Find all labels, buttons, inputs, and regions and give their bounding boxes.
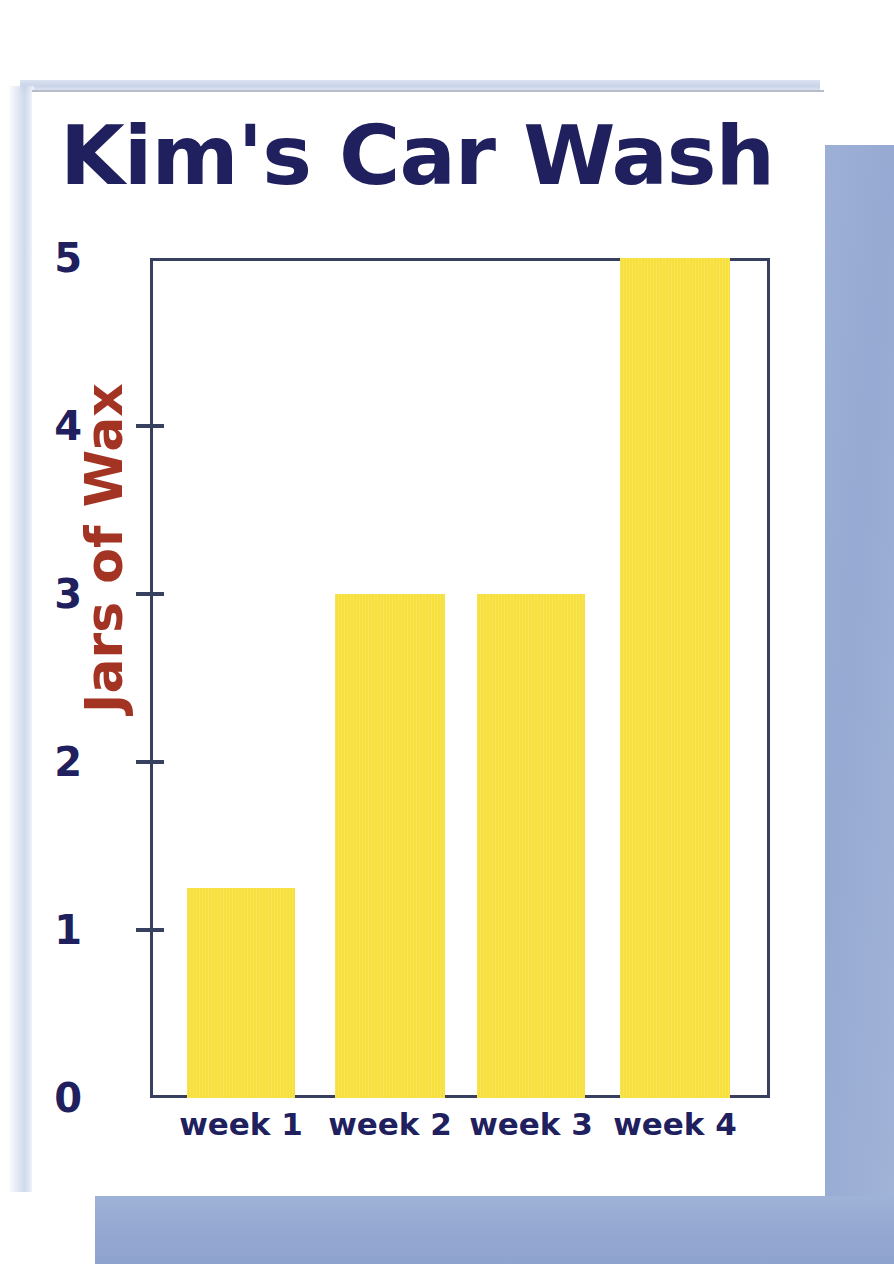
- bar-week-3: [477, 594, 585, 1098]
- x-axis-labels: week 1 week 2 week 3 week 4: [150, 1102, 770, 1162]
- bar-chart: 0 1 2 3 4 5 Jars of Wax week 1 week 2 we: [32, 90, 824, 1194]
- blue-bottom-panel: [95, 1196, 894, 1264]
- blue-side-panel: [825, 145, 894, 1264]
- x-tick-label-week-1: week 1: [157, 1102, 325, 1146]
- bar-week-2: [335, 594, 445, 1098]
- x-tick-label-week-4: week 4: [591, 1102, 759, 1146]
- bar-week-1: [187, 888, 295, 1098]
- y-tick-label-4: 4: [22, 406, 82, 446]
- bar-week-4: [620, 258, 730, 1098]
- y-tick-label-2: 2: [22, 742, 82, 782]
- poster-page: Kim's Car Wash 0 1 2 3 4 5 Jars of Wax: [32, 90, 824, 1194]
- y-axis-title: Jars of Wax: [76, 348, 132, 748]
- y-tick-label-3: 3: [22, 574, 82, 614]
- x-tick-label-week-3: week 3: [447, 1102, 615, 1146]
- y-tick-label-1: 1: [22, 910, 82, 950]
- y-tick-label-0: 0: [22, 1078, 82, 1118]
- scanned-photo-background: Kim's Car Wash 0 1 2 3 4 5 Jars of Wax: [0, 0, 894, 1264]
- bar-series: [150, 258, 770, 1098]
- y-tick-label-5: 5: [22, 238, 82, 278]
